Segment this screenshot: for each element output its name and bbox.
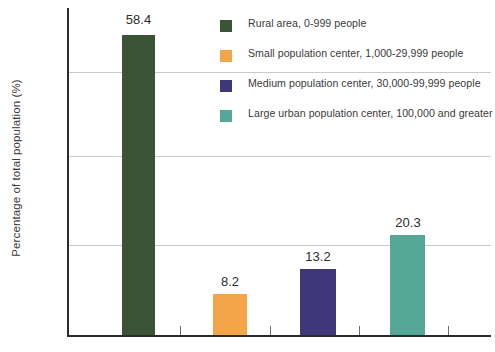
bar-value-medium-center: 13.2 [281, 249, 355, 264]
legend-label-small-center: Small population center, 1,000-29,999 pe… [248, 47, 463, 59]
legend-swatch-small-center [220, 50, 232, 62]
x-tick-4 [448, 326, 449, 335]
bar-value-small-center: 8.2 [193, 274, 267, 289]
legend-item-medium-center[interactable]: Medium population center, 30,000-99,999 … [220, 78, 488, 108]
x-axis-line [67, 335, 491, 337]
x-tick-1 [180, 326, 181, 335]
bar-small-center[interactable] [213, 294, 247, 335]
legend-label-rural: Rural area, 0-999 people [248, 17, 366, 29]
x-tick-2 [270, 326, 271, 335]
legend-item-rural[interactable]: Rural area, 0-999 people [220, 18, 488, 48]
legend-swatch-rural [220, 20, 232, 32]
legend-swatch-medium-center [220, 80, 232, 92]
y-axis-title: Percentage of total population (%) [10, 48, 22, 288]
legend-label-large-urban: Large urban population center, 100,000 a… [248, 107, 493, 119]
legend-swatch-large-urban [220, 110, 232, 122]
bar-rural[interactable] [122, 35, 155, 335]
bar-medium-center[interactable] [300, 269, 336, 335]
bar-chart: Percentage of total population (%) 45 30… [0, 0, 495, 352]
legend-item-small-center[interactable]: Small population center, 1,000-29,999 pe… [220, 48, 488, 78]
legend: Rural area, 0-999 people Small populatio… [220, 18, 488, 138]
legend-item-large-urban[interactable]: Large urban population center, 100,000 a… [220, 108, 488, 138]
bar-value-large-urban: 20.3 [371, 215, 445, 230]
y-axis-line [67, 8, 69, 337]
bar-value-rural: 58.4 [102, 12, 175, 27]
x-tick-3 [359, 326, 360, 335]
legend-label-medium-center: Medium population center, 30,000-99,999 … [248, 77, 481, 89]
bar-large-urban[interactable] [390, 235, 425, 335]
